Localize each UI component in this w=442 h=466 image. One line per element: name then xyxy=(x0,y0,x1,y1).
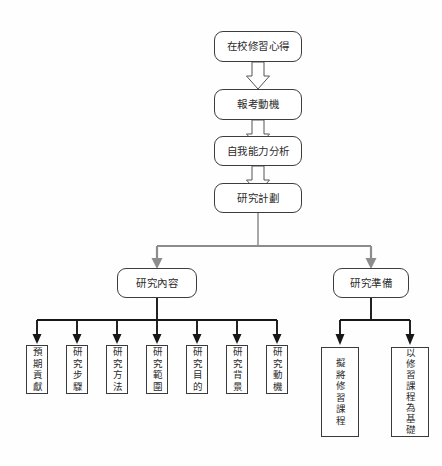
node-label: 自我能力分析 xyxy=(227,145,290,157)
node-預期貢獻[interactable]: 預期貢獻 xyxy=(26,345,48,394)
node-研究內容[interactable]: 研究內容 xyxy=(117,268,197,298)
node-研究準備[interactable]: 研究準備 xyxy=(333,268,409,298)
node-研究步驟[interactable]: 研究步驟 xyxy=(66,345,88,394)
node-label: 研究目的 xyxy=(192,347,202,393)
node-研究動機[interactable]: 研究動機 xyxy=(266,345,288,394)
node-研究方法[interactable]: 研究方法 xyxy=(106,345,128,394)
node-label: 研究內容 xyxy=(136,277,178,289)
node-以修習課程為基礎[interactable]: 以修習課程為基礎 xyxy=(391,347,429,437)
node-研究背景[interactable]: 研究背景 xyxy=(226,345,248,394)
node-label: 報考動機 xyxy=(237,98,279,110)
node-報考動機[interactable]: 報考動機 xyxy=(214,89,302,120)
node-擬將修習課程[interactable]: 擬將修習課程 xyxy=(321,347,359,437)
connector-layer xyxy=(0,0,442,466)
prep-split-bus xyxy=(336,298,415,345)
content-split-bus xyxy=(33,298,282,344)
node-label: 預期貢獻 xyxy=(32,347,42,393)
node-label: 研究方法 xyxy=(112,347,122,393)
gray-split-bus xyxy=(152,246,377,269)
node-label: 研究範圍 xyxy=(152,347,162,393)
node-label: 研究計劃 xyxy=(237,192,279,204)
node-研究計劃[interactable]: 研究計劃 xyxy=(214,183,302,213)
flowchart-canvas: 在校修習心得 報考動機 自我能力分析 研究計劃 研究內容 研究準備 預期貢獻 研… xyxy=(0,0,442,466)
node-label: 在校修習心得 xyxy=(227,40,290,52)
node-研究目的[interactable]: 研究目的 xyxy=(186,345,208,394)
node-label: 研究背景 xyxy=(232,347,242,393)
node-自我能力分析[interactable]: 自我能力分析 xyxy=(214,136,302,166)
node-label: 研究動機 xyxy=(272,347,282,393)
node-label: 以修習課程為基礎 xyxy=(405,348,415,436)
node-研究範圍[interactable]: 研究範圍 xyxy=(146,345,168,394)
node-label: 研究準備 xyxy=(350,277,392,289)
node-在校修習心得[interactable]: 在校修習心得 xyxy=(214,31,302,62)
block-arrow-n1-n2 xyxy=(247,62,270,89)
node-label: 擬將修習課程 xyxy=(335,358,345,427)
node-label: 研究步驟 xyxy=(72,347,82,393)
